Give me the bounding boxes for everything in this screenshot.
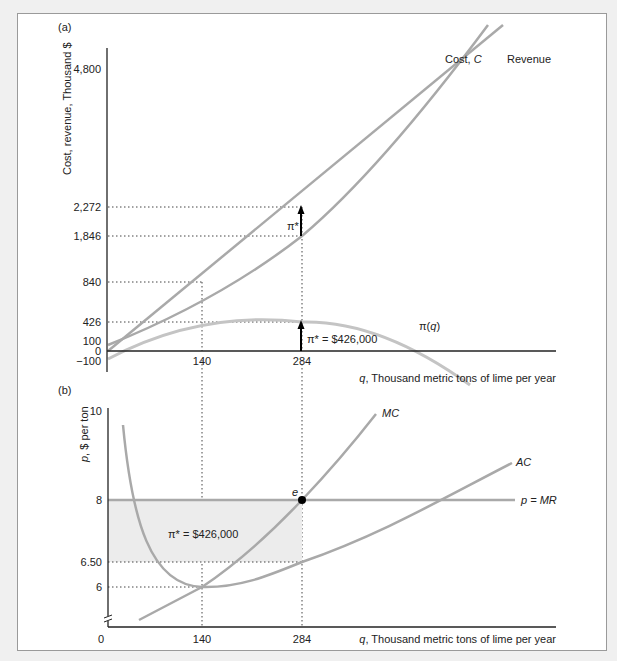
ac-label: AC <box>515 456 531 468</box>
panel-b-xtick-140: 140 <box>193 633 211 645</box>
profit-area-label: π* = $426,000 <box>168 528 238 540</box>
panel-a-ylabel: Cost, revenue, Thousand $ <box>61 43 73 176</box>
panel-a-xtick-284: 284 <box>293 355 311 367</box>
panel-b-xtick-284: 284 <box>293 633 311 645</box>
panel-a-yticks: 4,800 2,272 1,846 840 426 100 0 −100 <box>73 63 101 367</box>
svg-text:2,272: 2,272 <box>73 201 101 213</box>
profit-max-arrow <box>298 320 305 351</box>
panel-a-label: (a) <box>58 21 71 33</box>
revenue-curve <box>108 25 503 351</box>
revenue-label: Revenue <box>507 53 551 65</box>
panel-b-ylabel: p, $ per ton <box>78 406 90 463</box>
svg-text:4,800: 4,800 <box>73 63 101 75</box>
profit-curve-label: π(q) <box>419 320 440 332</box>
equilibrium-label: e <box>292 486 298 498</box>
panel-b-ytick-6.50: 6.50 <box>81 556 102 568</box>
panel-a-xtick-140: 140 <box>193 355 211 367</box>
cost-label: Cost, C <box>445 53 482 65</box>
chart-svg: (a) Cost, revenue, Thousand $ 4,800 2,27… <box>0 0 617 661</box>
svg-text:1,846: 1,846 <box>73 230 101 242</box>
panel-b-label: (b) <box>58 384 71 396</box>
panel-b-xlabel: q, Thousand metric tons of lime per year <box>359 633 556 645</box>
svg-text:−100: −100 <box>76 355 101 367</box>
mc-label: MC <box>382 407 399 419</box>
axis-break-icon <box>104 615 112 622</box>
panel-b-origin: 0 <box>98 633 104 645</box>
panel-b-ytick-6: 6 <box>96 581 102 593</box>
cost-curve <box>108 25 488 345</box>
profit-max-label: π* = $426,000 <box>307 333 377 345</box>
profit-gap-label: π* <box>287 220 300 232</box>
equilibrium-point <box>298 496 306 504</box>
svg-text:840: 840 <box>83 276 101 288</box>
svg-text:426: 426 <box>83 316 101 328</box>
panel-a-xlabel: q, Thousand metric tons of lime per year <box>359 372 556 384</box>
panel-b-ytick-8: 8 <box>96 494 102 506</box>
price-label: p = MR <box>520 494 557 506</box>
panel-b-ytick-10: 10 <box>90 405 102 417</box>
